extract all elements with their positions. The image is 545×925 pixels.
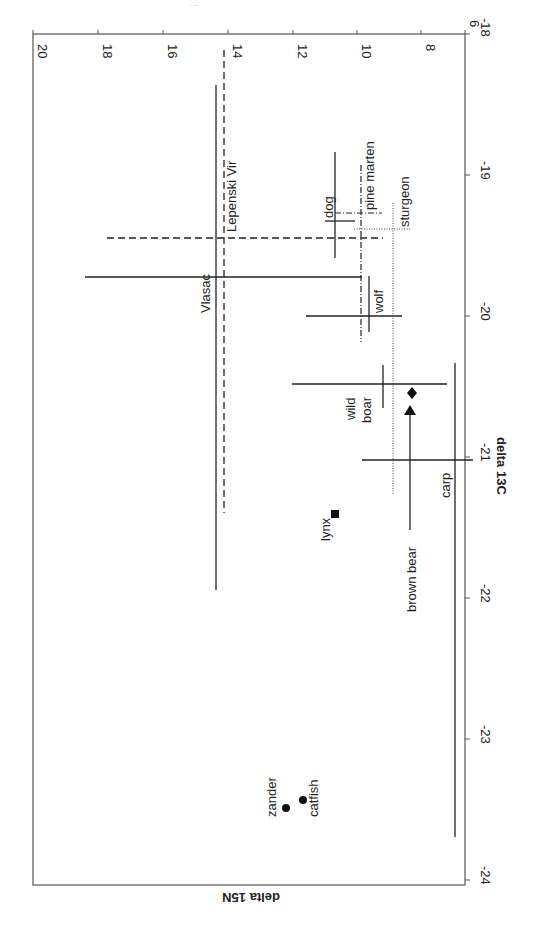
- y-tick-label: 20: [35, 44, 50, 58]
- brown-bear-triangle-marker: [404, 405, 416, 415]
- wild-boar-diamond-marker: [407, 387, 417, 399]
- x-axis-tick-labels: -18 -19 -20 -21 -22 -23 -24: [478, 18, 493, 885]
- x-tick-label: -23: [478, 725, 493, 744]
- zander-circle-marker: [282, 804, 290, 812]
- label-catfish: catfish: [306, 779, 321, 817]
- x-tick-label: -19: [478, 161, 493, 180]
- label-sturgeon: sturgeon: [397, 176, 412, 227]
- x-axis-title: delta 13C: [494, 437, 509, 495]
- y-tick-label: 14: [230, 44, 245, 58]
- y-tick-label: 18: [100, 44, 115, 58]
- label-vlasac: Vlasac: [198, 273, 213, 313]
- stable-isotope-chart: … 20 18 16 14 12 10 8 6 -18 -19 -20 -21: [0, 0, 545, 925]
- label-lepenski-vir: Lepenski Vir: [224, 160, 239, 232]
- x-tick-label: -20: [478, 302, 493, 321]
- series-sturgeon: [354, 203, 410, 494]
- label-boar: boar: [359, 396, 374, 423]
- y-axis-title: delta 15N: [222, 890, 280, 905]
- label-brown-bear: brown bear: [404, 546, 419, 612]
- header-fragment: …: [190, 0, 199, 8]
- x-tick-label: -21: [478, 443, 493, 462]
- label-carp: carp: [438, 473, 453, 498]
- y-tick-label: 12: [295, 44, 310, 58]
- x-axis-ticks: [465, 34, 470, 880]
- x-tick-label: -24: [478, 866, 493, 885]
- x-tick-label: -22: [478, 584, 493, 603]
- series-lepenski-vir: [107, 50, 383, 513]
- y-tick-label: 8: [423, 44, 438, 51]
- label-wild: wild: [343, 398, 358, 421]
- series-wolf: [306, 276, 402, 332]
- label-dog: dog: [321, 196, 336, 218]
- y-tick-label: 16: [165, 44, 180, 58]
- y-tick-label: 10: [359, 44, 374, 58]
- y-axis-tick-labels: 20 18 16 14 12 10 8 6: [35, 20, 482, 58]
- label-pine-marten: pine marten: [362, 141, 377, 210]
- label-wolf: wolf: [371, 289, 386, 314]
- x-tick-label: -18: [478, 18, 493, 37]
- lynx-square-marker: [331, 510, 339, 518]
- label-lynx: lynx: [318, 517, 333, 541]
- label-zander: zander: [264, 777, 279, 817]
